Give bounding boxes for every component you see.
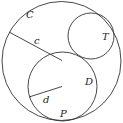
label-c: c [34,35,40,46]
label-D: D [84,76,93,87]
label-C: C [26,9,34,20]
label-P: P [59,108,67,119]
circle-C [2,2,121,121]
label-d: d [43,94,49,105]
diagram-canvas: C c T D d P [0,0,123,123]
label-T: T [102,31,110,42]
circle-diagram: C c T D d P [0,0,123,123]
